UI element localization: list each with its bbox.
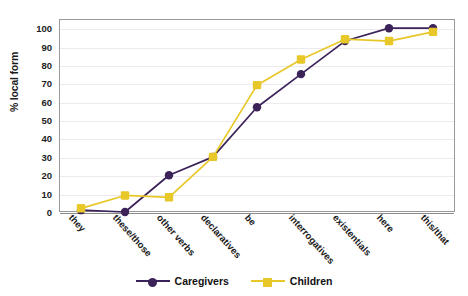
y-axis-tick: 100 <box>36 23 52 34</box>
x-axis-tick: this/that <box>419 212 452 247</box>
x-axis-tick: other verbs <box>155 212 198 258</box>
y-axis-tick-labels: 0102030405060708090100 <box>0 0 59 212</box>
x-axis-tick: interrogatives <box>287 212 337 266</box>
x-axis-tick: these/those <box>111 212 155 259</box>
legend-item[interactable]: Children <box>251 275 333 287</box>
legend-swatch <box>136 275 170 287</box>
series-line <box>81 28 433 212</box>
x-axis-tick: they <box>67 212 88 234</box>
y-axis-tick: 80 <box>41 59 52 70</box>
series-line <box>81 32 433 208</box>
data-point[interactable] <box>253 81 261 89</box>
data-point[interactable] <box>341 35 349 43</box>
line-chart: % local form 0102030405060708090100 they… <box>0 0 468 296</box>
data-point[interactable] <box>165 193 173 201</box>
legend-circle-icon <box>148 278 157 287</box>
data-point[interactable] <box>121 191 129 199</box>
legend-square-icon <box>263 278 272 287</box>
y-axis-tick: 60 <box>41 96 52 107</box>
x-axis-tick-labels: theythese/thoseother verbsdeclarativesbe… <box>0 212 468 274</box>
data-point[interactable] <box>429 28 437 36</box>
y-axis-tick: 20 <box>41 170 52 181</box>
data-point[interactable] <box>385 24 393 32</box>
legend-swatch <box>251 275 285 287</box>
data-point[interactable] <box>165 171 173 179</box>
legend-label: Children <box>290 275 333 287</box>
data-point[interactable] <box>209 153 217 161</box>
data-point[interactable] <box>253 103 261 111</box>
series-layer <box>59 19 455 212</box>
x-axis-tick: existentials <box>331 212 374 258</box>
data-point[interactable] <box>297 55 305 63</box>
y-axis-tick: 90 <box>41 41 52 52</box>
y-axis-tick: 30 <box>41 151 52 162</box>
data-point[interactable] <box>297 70 305 78</box>
x-axis-tick: declaratives <box>199 212 244 260</box>
y-axis-tick: 10 <box>41 188 52 199</box>
y-axis-tick: 40 <box>41 133 52 144</box>
y-axis-tick: 50 <box>41 115 52 126</box>
x-axis-tick: be <box>243 212 259 228</box>
legend-item[interactable]: Caregivers <box>136 275 229 287</box>
x-axis-tick: here <box>375 212 397 234</box>
data-point[interactable] <box>385 37 393 45</box>
y-axis-tick: 70 <box>41 78 52 89</box>
chart-legend: CaregiversChildren <box>0 270 468 292</box>
legend-label: Caregivers <box>175 275 229 287</box>
